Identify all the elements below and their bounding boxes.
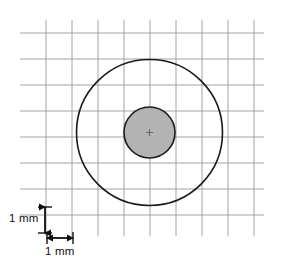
diagram-canvas: 1 mm 1 mm xyxy=(0,0,281,272)
vertical-scale-label: 1 mm xyxy=(9,212,39,224)
concentric-circles-diagram xyxy=(0,0,281,272)
horizontal-scale-label: 1 mm xyxy=(45,245,75,257)
